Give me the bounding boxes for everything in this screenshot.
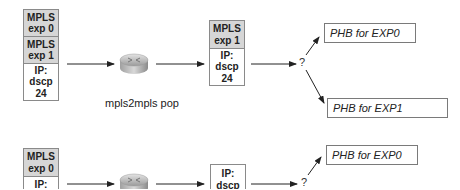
egress-label-stack-top: MPLS exp 1 IP: dscp 24 [209,20,245,86]
egress-label-stack-bottom: IP: dscp [210,164,246,189]
cell-text: dscp [29,76,52,88]
cell-text: dscp [215,61,238,73]
mpls-exp0-label: MPLS exp 0 [24,10,58,37]
cell-text: MPLS [27,39,55,51]
cell-text: exp 1 [28,50,54,62]
cell-text: 24 [221,73,232,85]
cell-text: MPLS [27,151,55,163]
cell-text: IP: [35,179,48,189]
ingress-label-stack-bottom: MPLS exp 0 IP: [23,148,59,189]
mpls-exp1-label: MPLS exp 1 [24,37,58,64]
cell-text: 24 [35,88,46,100]
cell-text: dscp [216,180,239,190]
cell-text: exp 1 [214,35,240,47]
phb-exp0-box-top: PHB for EXP0 [324,23,416,43]
ip-header: IP: [24,177,58,189]
cell-text: IP: [221,50,234,62]
cell-text: IP: [222,168,235,180]
ip-dscp-header: IP: dscp [211,165,245,189]
cell-text: exp 0 [28,23,54,35]
ip-dscp-header: IP: dscp 24 [24,64,58,100]
mpls-exp0-label: MPLS exp 0 [24,149,58,177]
cell-text: MPLS [27,12,55,24]
phb-exp1-box-top: PHB for EXP1 [327,98,448,118]
router-icon [119,172,149,189]
ip-dscp-header: IP: dscp 24 [210,49,244,85]
phb-exp0-box-bottom: PHB for EXP0 [326,145,418,165]
decision-marker-top: ? [299,56,305,68]
router-action-label: mpls2mpls pop [105,97,179,109]
ingress-label-stack-top: MPLS exp 0 MPLS exp 1 IP: dscp 24 [23,9,59,101]
cell-text: exp 0 [28,163,54,175]
mpls-exp1-label: MPLS exp 1 [210,21,244,49]
decision-marker-bottom: ? [301,176,307,188]
router-icon [119,52,149,76]
cell-text: MPLS [213,23,241,35]
cell-text: IP: [35,65,48,77]
